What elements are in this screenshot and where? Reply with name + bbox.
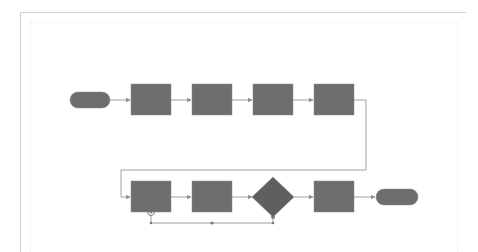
decision-diamond[interactable] xyxy=(252,177,294,217)
process-box-2[interactable] xyxy=(192,84,232,115)
end-terminator[interactable] xyxy=(376,189,418,205)
connector-midpoint-handle[interactable] xyxy=(210,221,213,224)
process-box-4[interactable] xyxy=(314,84,354,115)
connector-corner-handle-right[interactable] xyxy=(272,222,275,225)
process-box-7[interactable] xyxy=(314,181,354,212)
process-box-6[interactable] xyxy=(192,181,232,212)
process-box-1[interactable] xyxy=(131,84,171,115)
process-box-5[interactable] xyxy=(131,181,171,212)
start-terminator[interactable] xyxy=(70,92,110,108)
connector-corner-handle-left[interactable] xyxy=(150,222,153,225)
process-box-3[interactable] xyxy=(253,84,293,115)
